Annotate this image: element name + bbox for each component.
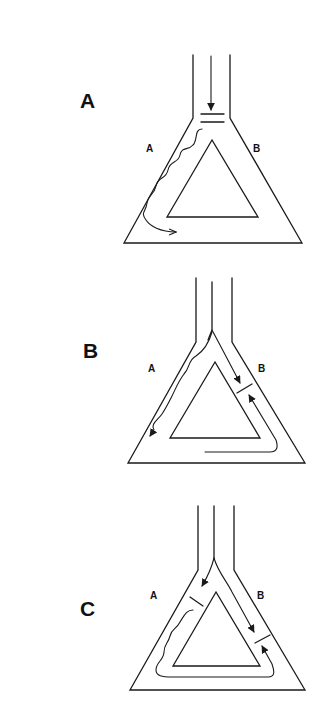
flow-path-b-down bbox=[212, 330, 240, 383]
panel-c: C A B bbox=[80, 506, 305, 690]
arm-label-left: A bbox=[150, 590, 157, 601]
panel-label-a: A bbox=[80, 89, 95, 112]
wave-front-path bbox=[156, 610, 274, 677]
panel-b: B A B bbox=[83, 278, 305, 463]
inlet-divider bbox=[208, 282, 212, 340]
panel-label-c: C bbox=[80, 597, 95, 620]
panel-label-b: B bbox=[83, 339, 98, 362]
arm-label-right: B bbox=[257, 590, 264, 601]
panel-a: A A B bbox=[80, 55, 302, 243]
triangular-loop-diagram: A A B B A B C A B bbox=[0, 0, 334, 726]
inner-island bbox=[170, 362, 260, 438]
block-line-b bbox=[237, 384, 252, 393]
flow-path-b-up bbox=[205, 395, 277, 452]
arm-label-left: A bbox=[148, 363, 155, 374]
inner-island bbox=[173, 592, 260, 666]
arm-label-left: A bbox=[146, 143, 153, 154]
arm-label-right: B bbox=[253, 143, 260, 154]
flow-path-a-down bbox=[202, 558, 214, 586]
inner-island bbox=[167, 140, 258, 217]
arm-label-right: B bbox=[258, 363, 265, 374]
block-line-b bbox=[255, 635, 270, 643]
block-line-a bbox=[190, 597, 203, 606]
